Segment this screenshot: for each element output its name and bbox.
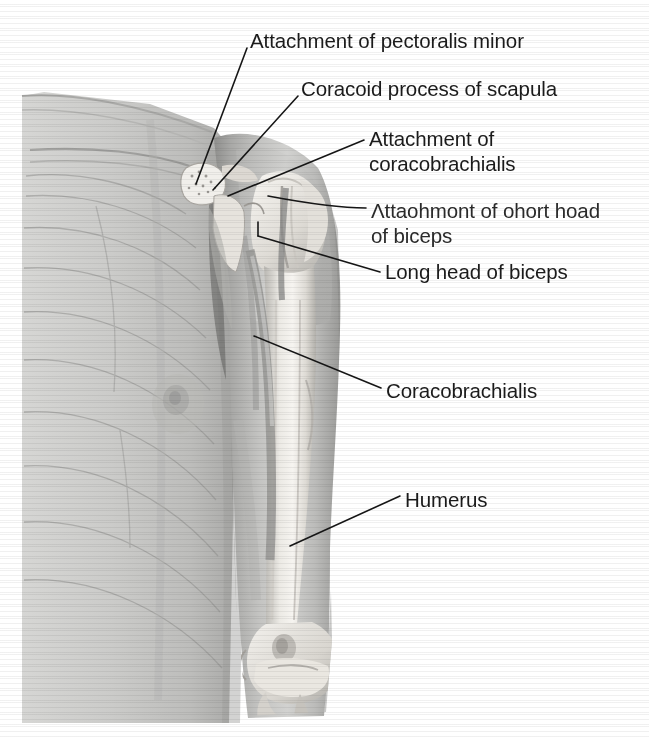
label-line-2: coracobrachialis <box>369 152 516 175</box>
figure-canvas: Attachment of pectoralis minor Coracoid … <box>0 0 649 739</box>
label-line-1: Λttaohmont of ohort hoad <box>371 199 600 222</box>
anatomy-illustration <box>0 0 649 739</box>
label-humerus: Humerus <box>405 487 487 512</box>
label-line-1: Attachment of <box>369 127 494 150</box>
label-coracobrachialis-attachment: Attachment ofcoracobrachialis <box>369 126 516 176</box>
label-coracobrachialis: Coracobrachialis <box>386 378 537 403</box>
label-pectoralis-minor: Attachment of pectoralis minor <box>250 28 524 53</box>
label-coracoid-process: Coracoid process of scapula <box>301 76 557 101</box>
label-long-head-biceps: Long head of biceps <box>385 259 568 284</box>
label-short-head-biceps: Λttaohmont of ohort hoadof biceps <box>371 198 600 248</box>
label-line-2: of biceps <box>371 224 452 247</box>
